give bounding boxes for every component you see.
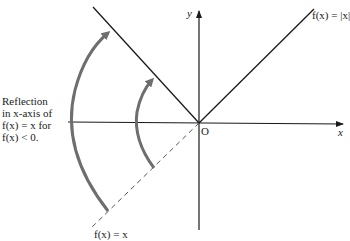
x-axis xyxy=(68,122,343,124)
identity-dashed-line xyxy=(90,123,199,229)
reflection-annotation: Reflection in x-axis of f(x) = x for f(x… xyxy=(2,95,52,143)
abs-right-branch xyxy=(199,9,314,123)
inner-reflection-arrow xyxy=(136,80,154,168)
origin-label: O xyxy=(201,125,209,137)
abs-function-label: f(x) = |x| xyxy=(312,9,350,21)
identity-function-label: f(x) = x xyxy=(94,228,128,240)
annotation-line: f(x) = x for xyxy=(2,119,52,131)
graph-canvas xyxy=(0,0,350,241)
annotation-line: in x-axis of xyxy=(2,107,52,119)
abs-left-branch xyxy=(93,7,199,123)
annotation-line: Reflection xyxy=(2,95,52,107)
y-axis-label: y xyxy=(187,7,192,19)
x-axis-label: x xyxy=(338,126,343,138)
annotation-line: f(x) < 0. xyxy=(2,131,52,143)
